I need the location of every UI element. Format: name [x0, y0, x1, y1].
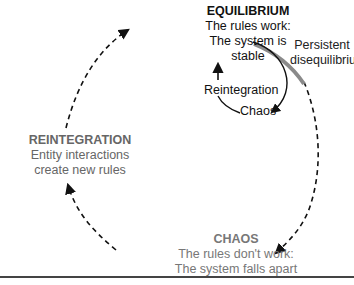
reintegration-desc-line2: create new rules	[6, 163, 154, 178]
arrow-reintegration-to-equilibrium	[66, 30, 128, 128]
inner-reintegration-label: Reintegration	[204, 83, 278, 98]
persistent-line1: Persistent	[290, 38, 354, 53]
node-equilibrium: EQUILIBRIUM The rules work: The system i…	[190, 4, 306, 64]
chaos-desc-line1: The rules don't work:	[162, 247, 310, 262]
inner-chaos-label: Chaos	[240, 104, 276, 119]
arrow-equilibrium-to-chaos	[276, 82, 318, 253]
chaos-title: CHAOS	[162, 232, 310, 247]
persistent-line2: disequilibrium	[290, 53, 354, 68]
equilibrium-desc-line2: The system is	[190, 34, 306, 49]
chaos-desc-line2: The system falls apart	[162, 262, 310, 277]
persistent-disequilibrium-label: Persistent disequilibrium	[290, 38, 354, 68]
arrow-chaos-to-reintegration	[68, 185, 116, 250]
equilibrium-title: EQUILIBRIUM	[190, 4, 306, 19]
cycle-diagram: EQUILIBRIUM The rules work: The system i…	[0, 0, 354, 285]
bottom-divider	[0, 276, 354, 278]
arrow-inner-chaos-to-equilibrium	[218, 96, 240, 113]
equilibrium-desc-line3: stable	[190, 49, 306, 64]
node-chaos: CHAOS The rules don't work: The system f…	[162, 232, 310, 277]
reintegration-title: REINTEGRATION	[6, 133, 154, 148]
equilibrium-desc-line1: The rules work:	[190, 19, 306, 34]
node-reintegration: REINTEGRATION Entity interactions create…	[6, 133, 154, 178]
reintegration-desc-line1: Entity interactions	[6, 148, 154, 163]
